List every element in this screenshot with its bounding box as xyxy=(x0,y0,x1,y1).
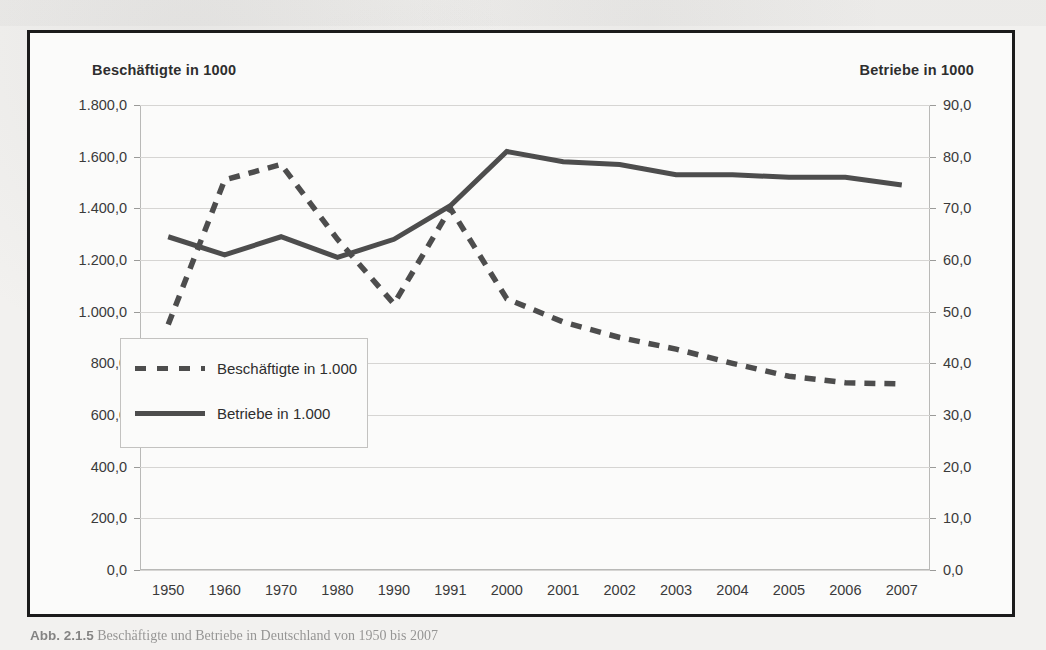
y-axis-left-tick-label: 0,0 xyxy=(107,562,127,578)
y-axis-right-tick-label: 70,0 xyxy=(943,200,971,216)
y-axis-right-tick-label: 30,0 xyxy=(943,407,971,423)
y-axis-right-tick-label: 20,0 xyxy=(943,459,971,475)
chart-legend: Beschäftigte in 1.000 Betriebe in 1.000 xyxy=(120,338,368,448)
legend-item-beschaeftigte: Beschäftigte in 1.000 xyxy=(135,360,357,377)
x-axis-tick-label: 2004 xyxy=(716,582,748,598)
y-axis-right-tickmark xyxy=(930,570,936,571)
y-axis-left-tick-label: 1.400,0 xyxy=(79,200,127,216)
y-axis-right-tickmark xyxy=(930,363,936,364)
y-axis-left-tick-label: 1.200,0 xyxy=(79,252,127,268)
x-axis-tick-label: 2006 xyxy=(829,582,861,598)
y-axis-right-tickmark xyxy=(930,260,936,261)
x-axis-tick-label: 1970 xyxy=(265,582,297,598)
legend-label-beschaeftigte: Beschäftigte in 1.000 xyxy=(217,360,357,377)
x-axis-tick-label: 1990 xyxy=(378,582,410,598)
legend-swatch-solid-icon xyxy=(135,411,205,416)
y-axis-right-tick-label: 40,0 xyxy=(943,355,971,371)
x-axis-tick-label: 1991 xyxy=(434,582,466,598)
y-axis-right-tick-label: 50,0 xyxy=(943,304,971,320)
x-axis-tick-label: 2002 xyxy=(604,582,636,598)
y-axis-right-tickmark xyxy=(930,518,936,519)
y-axis-right-tickmark xyxy=(930,415,936,416)
figure-frame: Beschäftigte in 1000 Betriebe in 1000 0,… xyxy=(27,30,1015,617)
y-axis-left-tick-label: 1.800,0 xyxy=(79,97,127,113)
left-axis-title: Beschäftigte in 1000 xyxy=(92,62,236,78)
legend-item-betriebe: Betriebe in 1.000 xyxy=(135,405,330,422)
y-axis-right-tickmark xyxy=(930,208,936,209)
y-axis-right-tickmark xyxy=(930,467,936,468)
y-axis-left-tickmark xyxy=(134,570,140,571)
x-axis-tick-label: 2003 xyxy=(660,582,692,598)
right-axis-title: Betriebe in 1000 xyxy=(860,62,974,78)
figure-caption-label: Abb. 2.1.5 xyxy=(30,628,94,643)
x-axis-tick-label: 1950 xyxy=(152,582,184,598)
x-axis-tick-label: 1980 xyxy=(321,582,353,598)
y-axis-left-tick-label: 1.000,0 xyxy=(79,304,127,320)
y-axis-left-tick-label: 400,0 xyxy=(91,459,127,475)
figure-caption-text: Beschäftigte und Betriebe in Deutschland… xyxy=(97,628,438,643)
y-axis-right-tick-label: 90,0 xyxy=(943,97,971,113)
y-axis-right-tick-label: 80,0 xyxy=(943,149,971,165)
x-axis-tick-label: 2007 xyxy=(886,582,918,598)
figure-caption: Abb. 2.1.5 Beschäftigte und Betriebe in … xyxy=(30,628,930,650)
legend-label-betriebe: Betriebe in 1.000 xyxy=(217,405,330,422)
gridline xyxy=(140,570,930,571)
x-axis-tick-label: 1960 xyxy=(209,582,241,598)
y-axis-right-tick-label: 60,0 xyxy=(943,252,971,268)
y-axis-right-tickmark xyxy=(930,105,936,106)
legend-swatch-dashed-icon xyxy=(135,366,205,371)
y-axis-left-tick-label: 1.600,0 xyxy=(79,149,127,165)
x-axis-tick-label: 2005 xyxy=(773,582,805,598)
y-axis-right-tickmark xyxy=(930,312,936,313)
y-axis-left-tick-label: 200,0 xyxy=(91,510,127,526)
y-axis-right-tick-label: 10,0 xyxy=(943,510,971,526)
y-axis-right-tick-label: 0,0 xyxy=(943,562,963,578)
x-axis-tick-label: 2000 xyxy=(491,582,523,598)
y-axis-right-tickmark xyxy=(930,157,936,158)
x-axis-tick-label: 2001 xyxy=(547,582,579,598)
